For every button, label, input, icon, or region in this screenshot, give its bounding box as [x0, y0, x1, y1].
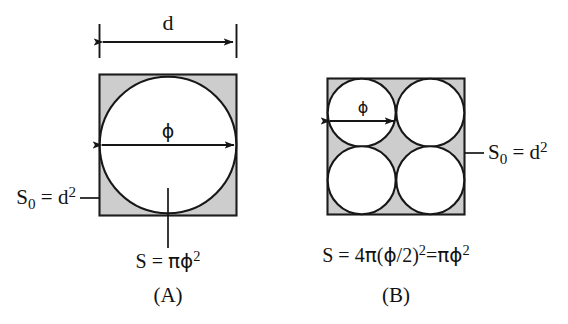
panel-b: ϕ S0 = d2 S = 4π(ϕ/2)2=πϕ2 (B) [322, 79, 547, 308]
circle-b-4 [396, 146, 464, 214]
formula-b-prefix: S = 4 [322, 244, 364, 266]
s-subscript-b: 0 [500, 151, 508, 167]
formula-b-sup2: 2 [463, 242, 470, 258]
formula-b-sup: 2 [419, 242, 426, 258]
phi-label-a: ϕ [162, 120, 175, 142]
s-symbol-a: S [16, 185, 28, 209]
circle-b-3 [328, 146, 396, 214]
s-superscript-a: 2 [68, 184, 76, 200]
figure-root: d ϕ S0 = d2 S = πϕ2 [0, 0, 568, 324]
s-superscript-b: 2 [540, 139, 548, 155]
s-symbol-b: S [488, 140, 500, 164]
formula-b-phi2: ϕ [449, 243, 462, 267]
circle-b-2 [396, 79, 464, 147]
circle-area-label-a: S = πϕ2 [136, 248, 201, 273]
circle-area-label-b: S = 4π(ϕ/2)2=πϕ2 [322, 242, 470, 267]
dimension-d-group: d [100, 10, 237, 58]
figure-canvas: d ϕ S0 = d2 S = πϕ2 [0, 0, 568, 324]
square-area-label-b-group: S0 = d2 [465, 139, 548, 167]
formula-b-equals: = [426, 244, 437, 266]
formula-b-half: /2 [397, 244, 413, 266]
s-subscript-a: 0 [28, 196, 36, 212]
panel-a: d ϕ S0 = d2 S = πϕ2 [16, 10, 236, 307]
square-area-label-b: S0 = d2 [488, 139, 548, 167]
formula-a-sup: 2 [193, 248, 200, 264]
square-area-label-a-group: S0 = d2 [16, 184, 99, 212]
phi-label-b: ϕ [358, 98, 369, 117]
caption-b: (B) [382, 283, 410, 307]
caption-a: (A) [153, 283, 182, 307]
formula-b-pi2: π [437, 243, 449, 267]
s-equals-d-b: = d [507, 140, 540, 164]
formula-a-phi: ϕ [180, 249, 193, 273]
s-equals-d-a: = d [36, 185, 69, 209]
dimension-label-d: d [163, 10, 174, 35]
formula-b-phi: ϕ [383, 243, 396, 267]
square-area-label-a: S0 = d2 [16, 184, 76, 212]
formula-b-pi: π [365, 243, 377, 267]
formula-b-close: ) [412, 244, 419, 267]
formula-a-pi: π [168, 249, 180, 273]
formula-a-prefix: S = [136, 250, 168, 272]
